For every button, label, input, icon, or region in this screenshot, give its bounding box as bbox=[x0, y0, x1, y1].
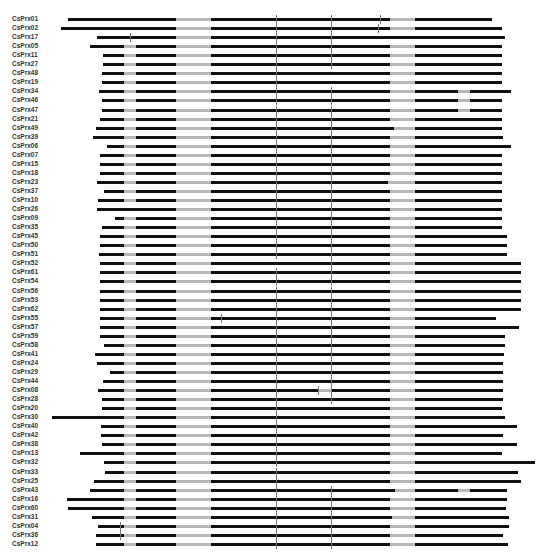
tick-mark bbox=[331, 133, 332, 142]
exon-segment bbox=[136, 543, 176, 546]
tick-mark bbox=[331, 350, 332, 359]
exon-segment bbox=[102, 407, 124, 410]
exon-segment bbox=[80, 452, 124, 455]
gene-row: CsPrx47 bbox=[0, 106, 546, 115]
exon-segment bbox=[136, 244, 176, 247]
intron-segment bbox=[176, 461, 211, 464]
intron-segment bbox=[176, 489, 211, 492]
exon-segment bbox=[415, 63, 502, 66]
gene-row: CsPrx48 bbox=[0, 69, 546, 78]
tick-mark bbox=[276, 458, 277, 467]
exon-segment bbox=[136, 299, 176, 302]
exon-segment bbox=[415, 172, 502, 175]
intron-segment bbox=[124, 489, 136, 492]
exon-segment bbox=[211, 335, 390, 338]
exon-segment bbox=[211, 398, 390, 401]
gene-label: CsPrx35 bbox=[12, 222, 38, 231]
intron-segment bbox=[124, 290, 136, 293]
exon-segment bbox=[103, 380, 124, 383]
tick-mark bbox=[221, 314, 222, 323]
exon-segment bbox=[211, 452, 390, 455]
exon-segment bbox=[211, 253, 390, 256]
tick-mark bbox=[276, 169, 277, 178]
gene-row: CsPrx04 bbox=[0, 522, 546, 531]
exon-segment bbox=[136, 154, 176, 157]
intron-segment bbox=[124, 389, 136, 392]
exon-segment bbox=[136, 72, 176, 75]
gene-row: CsPrx23 bbox=[0, 178, 546, 187]
tick-mark bbox=[276, 268, 277, 277]
tick-mark bbox=[276, 196, 277, 205]
exon-segment bbox=[415, 271, 521, 274]
intron-segment bbox=[176, 416, 211, 419]
intron-segment bbox=[390, 262, 415, 265]
tick-mark bbox=[276, 359, 277, 368]
exon-segment bbox=[136, 371, 176, 374]
intron-segment bbox=[176, 18, 211, 21]
gene-row: CsPrx50 bbox=[0, 241, 546, 250]
intron-segment bbox=[458, 109, 470, 112]
tick-mark bbox=[276, 60, 277, 69]
exon-segment bbox=[415, 317, 496, 320]
exon-segment bbox=[100, 335, 124, 338]
gene-label: CsPrx39 bbox=[12, 132, 38, 141]
gene-label: CsPrx48 bbox=[12, 68, 38, 77]
exon-segment bbox=[211, 54, 390, 57]
gene-row: CsPrx26 bbox=[0, 205, 546, 214]
exon-segment bbox=[415, 443, 517, 446]
intron-segment bbox=[390, 335, 415, 338]
intron-segment bbox=[176, 145, 211, 148]
exon-segment bbox=[211, 81, 390, 84]
exon-segment bbox=[211, 199, 390, 202]
intron-segment bbox=[390, 63, 415, 66]
intron-segment bbox=[390, 199, 415, 202]
exon-segment bbox=[68, 18, 176, 21]
tick-mark bbox=[331, 115, 332, 124]
exon-segment bbox=[136, 181, 176, 184]
intron-segment bbox=[124, 507, 136, 510]
intron-segment bbox=[390, 118, 415, 121]
gene-label: CsPrx08 bbox=[12, 385, 38, 394]
gene-label: CsPrx38 bbox=[12, 439, 38, 448]
intron-segment bbox=[176, 36, 211, 39]
tick-mark bbox=[331, 15, 332, 24]
exon-segment bbox=[211, 36, 505, 39]
intron-segment bbox=[124, 461, 136, 464]
intron-segment bbox=[390, 226, 415, 229]
exon-segment bbox=[211, 299, 390, 302]
gene-label: CsPrx60 bbox=[12, 503, 38, 512]
exon-segment bbox=[211, 516, 392, 519]
gene-row: CsPrx18 bbox=[0, 169, 546, 178]
intron-segment bbox=[124, 136, 136, 139]
intron-segment bbox=[176, 425, 211, 428]
exon-segment bbox=[102, 72, 124, 75]
exon-segment bbox=[211, 163, 390, 166]
exon-segment bbox=[93, 136, 124, 139]
gene-label: CsPrx54 bbox=[12, 276, 38, 285]
intron-segment bbox=[176, 480, 211, 483]
exon-segment bbox=[136, 290, 176, 293]
tick-mark bbox=[331, 241, 332, 250]
tick-mark bbox=[331, 205, 332, 214]
exon-segment bbox=[415, 145, 511, 148]
intron-segment bbox=[318, 389, 331, 392]
gene-row: CsPrx61 bbox=[0, 268, 546, 277]
exon-segment bbox=[136, 145, 176, 148]
exon-segment bbox=[211, 271, 390, 274]
exon-segment bbox=[99, 90, 124, 93]
intron-segment bbox=[390, 380, 415, 383]
intron-segment bbox=[124, 271, 136, 274]
intron-segment bbox=[176, 471, 211, 474]
tick-mark bbox=[276, 24, 277, 33]
intron-segment bbox=[124, 480, 136, 483]
exon-segment bbox=[470, 99, 502, 102]
exon-segment bbox=[415, 308, 521, 311]
exon-segment bbox=[136, 45, 176, 48]
gene-label: CsPrx21 bbox=[12, 114, 38, 123]
exon-segment bbox=[211, 407, 390, 410]
exon-segment bbox=[102, 226, 124, 229]
exon-segment bbox=[415, 280, 521, 283]
intron-segment bbox=[176, 127, 211, 130]
exon-segment bbox=[136, 498, 176, 501]
exon-segment bbox=[211, 145, 390, 148]
